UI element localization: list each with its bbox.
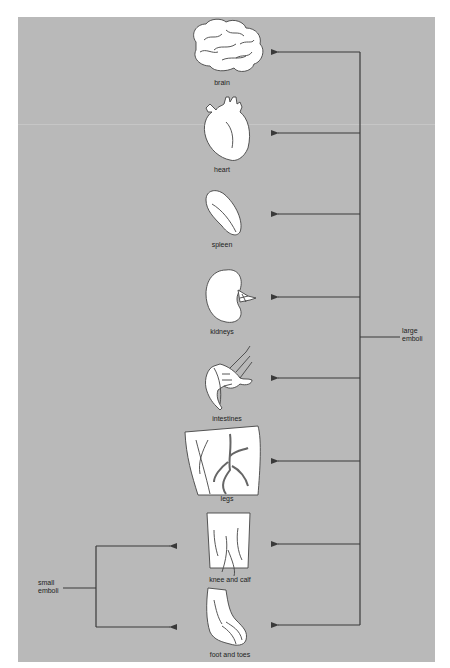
spleen-icon [206, 191, 241, 235]
large-emboli-line2: emboli [402, 335, 423, 343]
heart-icon [204, 97, 249, 161]
large-emboli-connectors [278, 52, 400, 625]
intestines-icon [205, 346, 252, 410]
label-spleen: spleen [205, 241, 239, 249]
knee-calf-icon [207, 513, 250, 576]
large-emboli-line1: large [402, 327, 423, 335]
label-foot-and-toes: foot and toes [200, 651, 260, 659]
kidney-icon [206, 270, 256, 323]
legs-icon [185, 426, 260, 495]
label-brain: brain [205, 79, 239, 87]
brain-icon [194, 19, 263, 71]
label-legs: legs [210, 495, 244, 503]
label-kidneys: kidneys [200, 328, 244, 336]
foot-icon [207, 588, 247, 645]
small-emboli-line2: emboli [38, 587, 59, 595]
small-emboli-label: small emboli [38, 579, 59, 595]
label-knee-and-calf: knee and calf [200, 576, 260, 584]
label-intestines: intestines [200, 415, 254, 423]
large-emboli-label: large emboli [402, 327, 423, 343]
label-heart: heart [205, 166, 239, 174]
small-emboli-connectors [63, 546, 170, 627]
small-emboli-line1: small [38, 579, 59, 587]
